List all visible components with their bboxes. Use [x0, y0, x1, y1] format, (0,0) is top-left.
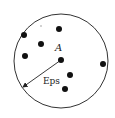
- diagram-canvas: A Eps: [0, 0, 115, 118]
- center-label: A: [54, 42, 62, 53]
- data-point: [58, 57, 64, 63]
- data-point: [100, 61, 106, 67]
- data-points: [21, 26, 106, 92]
- faint-dot: [40, 25, 42, 27]
- eps-neighborhood-diagram: A Eps: [0, 0, 115, 118]
- data-point: [62, 86, 68, 92]
- data-point: [67, 72, 73, 78]
- data-point: [38, 41, 44, 47]
- data-point: [22, 53, 28, 59]
- data-point: [56, 26, 62, 32]
- data-point: [21, 32, 27, 38]
- radius-label: Eps: [43, 76, 60, 86]
